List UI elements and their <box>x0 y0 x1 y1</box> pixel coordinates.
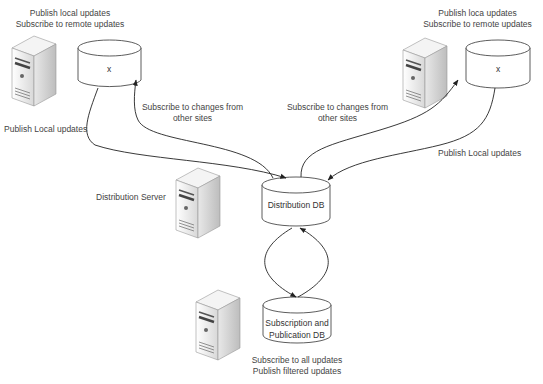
db-label-subscription-line2: Publication DB <box>269 330 325 340</box>
edge-label-left-subscribe-line1: Subscribe to changes from <box>140 102 245 113</box>
server-icon-left-site <box>12 36 56 106</box>
caption-right-site-line1: Publish loca updates <box>415 8 540 19</box>
diagram-canvas: x x Distribution DB Subscription and Pub… <box>0 0 543 384</box>
caption-right-site: Publish loca updates Subscribe to remote… <box>415 8 540 30</box>
server-icon-distribution <box>176 168 220 238</box>
caption-left-site-line2: Subscribe to remote updates <box>10 19 130 30</box>
caption-left-site: Publish local updates Subscribe to remot… <box>10 8 130 30</box>
edge-label-left-publish: Publish Local updates <box>4 124 87 135</box>
db-label-subscription-line1: Subscription and <box>265 318 329 328</box>
edge-label-left-subscribe: Subscribe to changes from other sites <box>140 102 245 124</box>
server-icon-subscription <box>196 290 240 360</box>
caption-subscription-line2: Publish filtered updates <box>237 366 357 377</box>
server-icon-right-site <box>403 38 447 108</box>
db-label-distribution: Distribution DB <box>268 200 325 210</box>
edge-label-right-publish: Publish Local updates <box>438 148 521 159</box>
caption-subscription: Subscribe to all updates Publish filtere… <box>237 355 357 377</box>
edge-sub-to-dist <box>298 228 328 297</box>
edge-label-left-subscribe-line2: other sites <box>140 113 245 124</box>
edge-label-right-subscribe: Subscribe to changes from other sites <box>285 102 390 124</box>
caption-subscription-line1: Subscribe to all updates <box>237 355 357 366</box>
caption-left-site-line1: Publish local updates <box>10 8 130 19</box>
edge-left-subscribe <box>134 80 273 178</box>
edge-label-right-subscribe-line2: other sites <box>285 113 390 124</box>
edge-label-right-subscribe-line1: Subscribe to changes from <box>285 102 390 113</box>
edge-dist-to-sub <box>265 228 296 297</box>
caption-right-site-line2: Subscribe to remote updates <box>415 19 540 30</box>
distribution-server-label: Distribution Server <box>96 192 166 203</box>
